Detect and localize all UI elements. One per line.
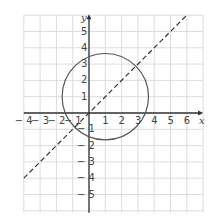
y-tick-label: 4 bbox=[81, 43, 87, 53]
y-tick-label: − 1 bbox=[77, 124, 95, 134]
x-tick-label: − 2 bbox=[47, 116, 65, 126]
x-tick-label: 5 bbox=[168, 116, 174, 126]
x-tick-label: 1 bbox=[102, 116, 108, 126]
y-tick-label: 2 bbox=[81, 75, 87, 85]
x-tick-label: − 4 bbox=[15, 116, 33, 126]
y-tick-label: − 3 bbox=[77, 157, 95, 167]
x-tick-label: 2 bbox=[119, 116, 125, 126]
plot-area bbox=[0, 0, 213, 220]
y-axis-label: y bbox=[81, 13, 87, 23]
x-axis-label: x bbox=[199, 116, 205, 126]
y-tick-label: − 4 bbox=[77, 173, 95, 183]
y-tick-label: − 5 bbox=[77, 190, 95, 200]
y-tick-label: 5 bbox=[81, 27, 87, 37]
x-tick-label: 3 bbox=[135, 116, 141, 126]
x-tick-label: 6 bbox=[184, 116, 190, 126]
y-tick-label: 1 bbox=[81, 92, 87, 102]
x-tick-label: 4 bbox=[151, 116, 157, 126]
y-tick-label: − 2 bbox=[77, 141, 95, 151]
y-tick-label: 3 bbox=[81, 59, 87, 69]
x-tick-label: − 3 bbox=[31, 116, 49, 126]
